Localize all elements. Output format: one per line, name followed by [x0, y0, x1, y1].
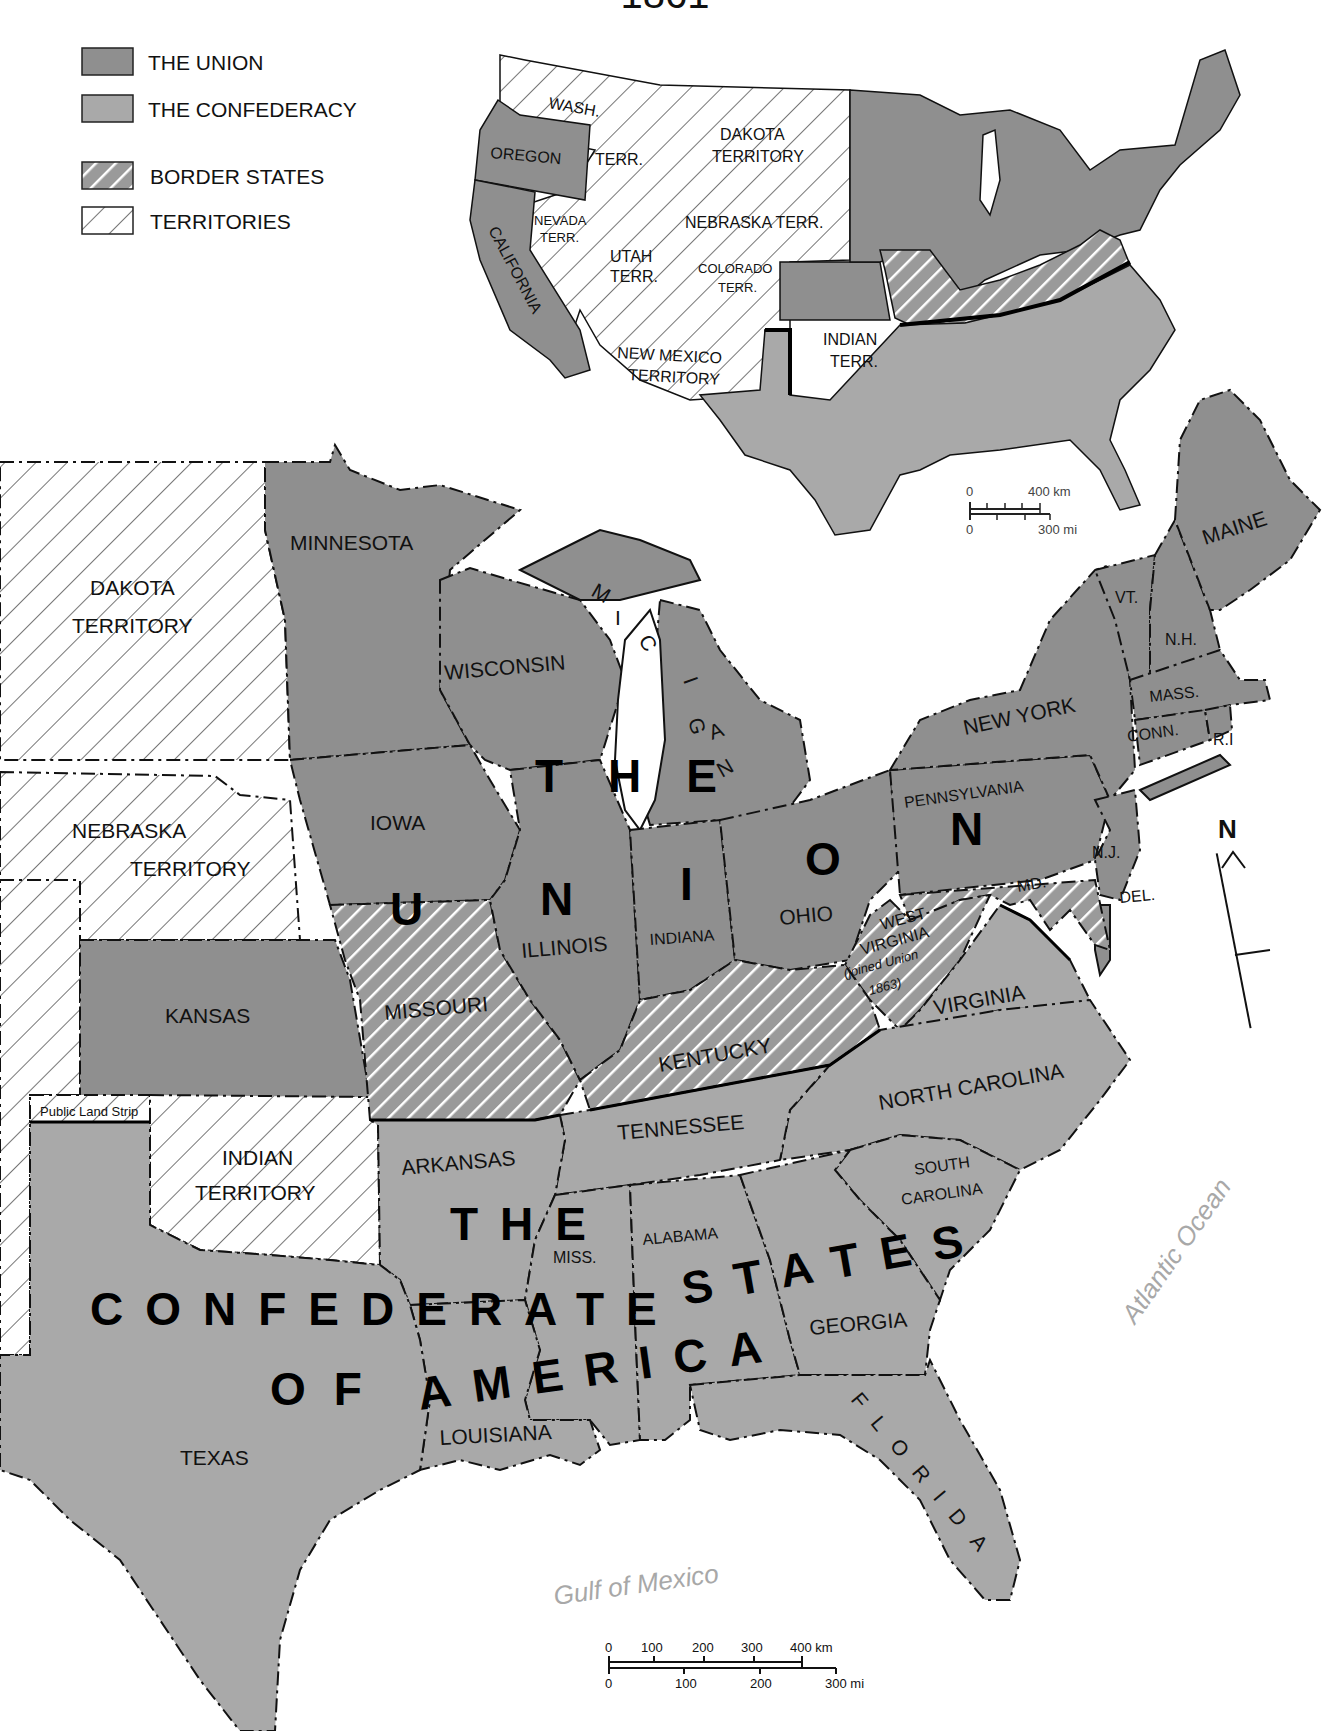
inset-label-wash-terr: TERR. — [595, 151, 643, 168]
svg-text:100: 100 — [675, 1676, 697, 1691]
inset-label-nebraska: NEBRASKA TERR. — [685, 214, 823, 231]
label-minnesota: MINNESOTA — [290, 531, 413, 554]
label-rhode-island: R.I — [1213, 731, 1233, 748]
legend-item-border-states: BORDER STATES — [82, 162, 324, 189]
svg-text:N: N — [1218, 814, 1237, 844]
svg-text:300 mi: 300 mi — [1038, 522, 1077, 537]
inset-kansas — [780, 262, 890, 320]
inset-label-colorado-terr: TERR. — [718, 280, 757, 295]
svg-text:200: 200 — [750, 1676, 772, 1691]
svg-text:N: N — [950, 803, 1005, 855]
territory-dakota — [0, 462, 290, 760]
inset-label-colorado: COLORADO — [698, 261, 772, 276]
inset-label-dakota: DAKOTA — [720, 126, 785, 143]
svg-text:I: I — [615, 606, 621, 629]
label-new-jersey: N.J. — [1092, 844, 1120, 861]
legend-label: THE UNION — [148, 51, 264, 74]
svg-text:0: 0 — [966, 522, 973, 537]
label-confederacy-the: THE — [450, 1198, 608, 1250]
north-arrow-icon: N — [1217, 814, 1270, 1029]
state-maine — [1175, 390, 1320, 610]
svg-text:100: 100 — [641, 1640, 663, 1655]
inset-label-indian-terr: TERR. — [830, 353, 878, 370]
svg-text:N: N — [540, 873, 595, 925]
confederacy-swatch — [82, 95, 133, 122]
union-swatch — [82, 48, 133, 75]
label-nebraska-territory: NEBRASKA — [72, 819, 186, 842]
label-iowa: IOWA — [370, 811, 425, 834]
svg-text:U: U — [390, 883, 445, 935]
inset-label-utah: UTAH — [610, 248, 652, 265]
inset-label-indian: INDIAN — [823, 331, 877, 348]
label-delaware: DEL. — [1119, 886, 1156, 906]
inset-label-new-mexico-terr: TERRITORY — [628, 366, 721, 388]
map-canvas: 1861 THE UNION THE CONFEDERACY BORDER ST… — [0, 0, 1333, 1731]
label-new-hampshire: N.H. — [1165, 631, 1197, 648]
label-indian-territory: INDIAN — [222, 1146, 293, 1169]
legend-label: TERRITORIES — [150, 210, 291, 233]
label-gulf-of-mexico: Gulf of Mexico — [552, 1558, 721, 1611]
label-mississippi: MISS. — [553, 1249, 597, 1266]
legend-item-union: THE UNION — [82, 48, 264, 75]
territory-indian — [150, 1095, 380, 1265]
legend-item-territories: TERRITORIES — [82, 207, 291, 234]
label-dakota-territory: DAKOTA — [90, 576, 175, 599]
label-kansas: KANSAS — [165, 1004, 250, 1027]
inset-label-utah-terr: TERR. — [610, 268, 658, 285]
label-the-union: THE — [535, 750, 762, 802]
main-scale-bar: 0 100 200 300 400 km 0 100 200 300 mi — [605, 1640, 864, 1691]
svg-text:200: 200 — [692, 1640, 714, 1655]
svg-text:300: 300 — [741, 1640, 763, 1655]
svg-text:0: 0 — [605, 1640, 612, 1655]
label-ohio: OHIO — [778, 901, 833, 929]
legend: THE UNION THE CONFEDERACY BORDER STATES … — [82, 48, 357, 234]
svg-text:0: 0 — [605, 1676, 612, 1691]
inset-label-nevada: NEVADA — [534, 213, 587, 228]
label-indian-territory-2: TERRITORY — [195, 1181, 316, 1204]
legend-item-confederacy: THE CONFEDERACY — [82, 95, 357, 122]
long-island — [1140, 755, 1230, 800]
border-states-swatch — [82, 162, 133, 189]
svg-text:0: 0 — [966, 484, 973, 499]
svg-text:400 km: 400 km — [1028, 484, 1071, 499]
inset-label-nevada-terr: TERR. — [540, 230, 579, 245]
legend-label: THE CONFEDERACY — [148, 98, 357, 121]
inset-map: WASH. TERR. OREGON DAKOTA TERRITORY NEVA… — [470, 50, 1240, 537]
svg-text:O: O — [805, 833, 863, 885]
label-confederacy-of: OF — [270, 1363, 390, 1415]
territories-swatch — [82, 207, 133, 234]
map-title: 1861 — [621, 0, 710, 16]
label-vermont: VT. — [1115, 589, 1138, 606]
svg-text:300 mi: 300 mi — [825, 1676, 864, 1691]
inset-label-dakota-terr: TERRITORY — [712, 148, 804, 165]
label-dakota-territory-2: TERRITORY — [72, 614, 193, 637]
label-public-land-strip: Public Land Strip — [40, 1104, 138, 1119]
label-nebraska-territory-2: TERRITORY — [130, 857, 251, 880]
label-texas: TEXAS — [180, 1446, 249, 1469]
inset-scale-bar: 0 400 km 0 300 mi — [966, 484, 1077, 537]
label-atlantic-ocean: Atlantic Ocean — [1114, 1173, 1237, 1330]
svg-text:I: I — [680, 858, 715, 910]
legend-label: BORDER STATES — [150, 165, 324, 188]
svg-text:400 km: 400 km — [790, 1640, 833, 1655]
label-confederacy-confederate: CONFEDERATE — [90, 1283, 679, 1335]
main-map: MINNESOTA WISCONSIN IOWA ILLINOIS INDIAN… — [0, 390, 1320, 1731]
